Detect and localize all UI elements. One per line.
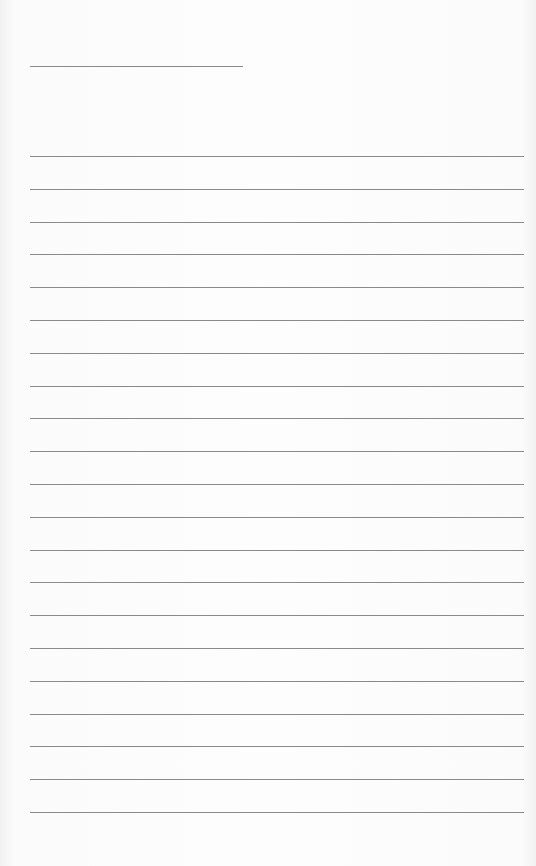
ruled-line: [30, 615, 524, 616]
ruled-line: [30, 812, 524, 813]
ruled-line: [30, 418, 524, 419]
lined-paper-page: [0, 0, 536, 866]
ruled-line: [30, 254, 524, 255]
ruled-line: [30, 320, 524, 321]
title-underline: [30, 66, 243, 67]
ruled-line: [30, 517, 524, 518]
ruled-line: [30, 681, 524, 682]
ruled-line: [30, 189, 524, 190]
ruled-line: [30, 484, 524, 485]
ruled-line: [30, 287, 524, 288]
ruled-line: [30, 550, 524, 551]
ruled-line: [30, 222, 524, 223]
ruled-line: [30, 156, 524, 157]
ruled-line: [30, 451, 524, 452]
ruled-line: [30, 714, 524, 715]
ruled-line: [30, 582, 524, 583]
ruled-line: [30, 648, 524, 649]
ruled-line: [30, 353, 524, 354]
ruled-line: [30, 779, 524, 780]
ruled-line: [30, 386, 524, 387]
ruled-line: [30, 746, 524, 747]
